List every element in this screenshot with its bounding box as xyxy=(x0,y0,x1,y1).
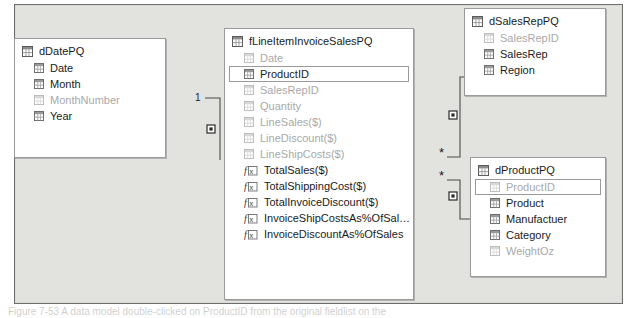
field-row[interactable]: LineShipCosts($) xyxy=(229,146,409,162)
field-list: DateMonthMonthNumberYear xyxy=(15,60,165,131)
field-list: DateProductIDSalesRepIDQuantityLineSales… xyxy=(225,50,413,249)
field-label: TotalSales($) xyxy=(264,164,328,176)
field-label: InvoiceShipCostsAs%OfSal… xyxy=(264,212,410,224)
column-icon xyxy=(484,65,494,75)
column-icon xyxy=(244,117,254,127)
table-name: dProductPQ xyxy=(495,164,555,176)
svg-text:x: x xyxy=(250,166,254,175)
field-row[interactable]: MonthNumber xyxy=(19,92,161,108)
column-icon xyxy=(490,230,500,240)
column-icon xyxy=(244,149,254,159)
column-icon xyxy=(34,63,44,73)
svg-text:x: x xyxy=(250,214,254,223)
field-label: Month xyxy=(50,78,81,90)
table-name: dDatePQ xyxy=(39,45,84,57)
field-row[interactable]: Product xyxy=(475,195,601,211)
table-name: dSalesRepPQ xyxy=(489,15,559,27)
table-box-fLineItemInvoiceSalesPQ[interactable]: fLineItemInvoiceSalesPQDateProductIDSale… xyxy=(224,28,414,300)
column-icon xyxy=(34,111,44,121)
table-icon xyxy=(22,46,33,57)
field-row[interactable]: Category xyxy=(475,227,601,243)
field-label: SalesRepID xyxy=(260,84,319,96)
field-row[interactable]: Year xyxy=(19,108,161,124)
field-row[interactable]: SalesRepID xyxy=(469,30,601,46)
table-header-dProductPQ[interactable]: dProductPQ xyxy=(471,158,605,179)
table-header-fLineItemInvoiceSalesPQ[interactable]: fLineItemInvoiceSalesPQ xyxy=(225,29,413,50)
field-list: SalesRepIDSalesRepRegion xyxy=(465,30,605,85)
column-icon xyxy=(244,69,254,79)
column-icon xyxy=(244,101,254,111)
field-label: Date xyxy=(50,62,73,74)
field-row[interactable]: Month xyxy=(19,76,161,92)
column-icon xyxy=(490,246,500,256)
svg-text:x: x xyxy=(250,230,254,239)
svg-text:f: f xyxy=(244,197,248,208)
field-label: TotalInvoiceDiscount($) xyxy=(264,196,378,208)
svg-text:f: f xyxy=(244,165,248,176)
column-icon xyxy=(34,79,44,89)
column-icon xyxy=(490,182,500,192)
field-row[interactable]: WeightOz xyxy=(475,243,601,259)
column-icon xyxy=(34,95,44,105)
field-row[interactable]: LineDiscount($) xyxy=(229,130,409,146)
column-icon xyxy=(484,49,494,59)
measure-icon: fx xyxy=(244,165,258,176)
field-label: Date xyxy=(260,52,283,64)
figure-caption-text: Figure 7-53 A data model double-clicked … xyxy=(8,306,628,318)
table-box-dDatePQ[interactable]: dDatePQDateMonthMonthNumberYear xyxy=(14,38,166,158)
field-row[interactable]: ProductID xyxy=(475,179,601,195)
measure-icon: fx xyxy=(244,181,258,192)
column-icon xyxy=(244,53,254,63)
column-icon xyxy=(490,214,500,224)
field-label: Manufactuer xyxy=(506,213,567,225)
field-label: Product xyxy=(506,197,544,209)
field-row[interactable]: fxInvoiceShipCostsAs%OfSal… xyxy=(229,210,409,226)
field-list: ProductIDProductManufactuerCategoryWeigh… xyxy=(471,179,605,266)
field-label: ProductID xyxy=(260,68,309,80)
field-row[interactable]: fxTotalShippingCost($) xyxy=(229,178,409,194)
svg-text:f: f xyxy=(244,229,248,240)
column-icon xyxy=(244,133,254,143)
field-label: WeightOz xyxy=(506,245,554,257)
field-label: SalesRepID xyxy=(500,32,559,44)
field-label: Category xyxy=(506,229,551,241)
table-name: fLineItemInvoiceSalesPQ xyxy=(249,35,373,47)
field-row[interactable]: SalesRep xyxy=(469,46,601,62)
field-row[interactable]: Quantity xyxy=(229,98,409,114)
svg-text:f: f xyxy=(244,181,248,192)
table-box-dProductPQ[interactable]: dProductPQProductIDProductManufactuerCat… xyxy=(470,157,606,277)
field-row[interactable]: Region xyxy=(469,62,601,78)
table-header-dSalesRepPQ[interactable]: dSalesRepPQ xyxy=(465,9,605,30)
field-label: Region xyxy=(500,64,535,76)
column-icon xyxy=(484,33,494,43)
column-icon xyxy=(244,85,254,95)
field-label: LineSales($) xyxy=(260,116,322,128)
field-label: SalesRep xyxy=(500,48,548,60)
measure-icon: fx xyxy=(244,197,258,208)
field-row[interactable]: fxTotalInvoiceDiscount($) xyxy=(229,194,409,210)
table-icon xyxy=(232,36,243,47)
field-row[interactable]: fxInvoiceDiscountAs%OfSales xyxy=(229,226,409,242)
figure-caption: Figure 7-53 A data model double-clicked … xyxy=(8,306,628,318)
measure-icon: fx xyxy=(244,229,258,240)
svg-text:x: x xyxy=(250,198,254,207)
table-header-dDatePQ[interactable]: dDatePQ xyxy=(15,39,165,60)
table-box-dSalesRepPQ[interactable]: dSalesRepPQSalesRepIDSalesRepRegion xyxy=(464,8,606,96)
field-row[interactable]: Date xyxy=(229,50,409,66)
field-label: InvoiceDiscountAs%OfSales xyxy=(264,228,403,240)
field-label: ProductID xyxy=(506,181,555,193)
measure-icon: fx xyxy=(244,213,258,224)
field-label: Year xyxy=(50,110,72,122)
field-row[interactable]: Manufactuer xyxy=(475,211,601,227)
model-diagram-canvas[interactable]: 1*1*1* dDatePQDateMonthMonthNumberYearfL… xyxy=(14,4,623,304)
field-label: Quantity xyxy=(260,100,301,112)
field-row[interactable]: fxTotalSales($) xyxy=(229,162,409,178)
field-label: TotalShippingCost($) xyxy=(264,180,366,192)
diagram-page: 1*1*1* dDatePQDateMonthMonthNumberYearfL… xyxy=(0,0,637,318)
field-row[interactable]: ProductID xyxy=(229,66,409,82)
field-row[interactable]: Date xyxy=(19,60,161,76)
field-label: MonthNumber xyxy=(50,94,120,106)
svg-text:x: x xyxy=(250,182,254,191)
field-row[interactable]: LineSales($) xyxy=(229,114,409,130)
field-row[interactable]: SalesRepID xyxy=(229,82,409,98)
